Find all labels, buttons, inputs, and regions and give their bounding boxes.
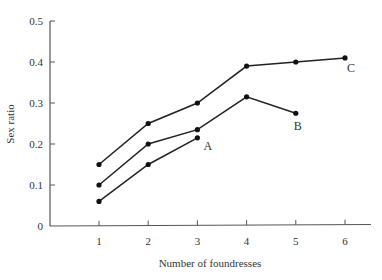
y-tick-label: 0.1: [29, 179, 43, 191]
series-line-a: [99, 138, 197, 202]
series-line-c: [99, 58, 345, 165]
series-label-b: B: [294, 119, 302, 133]
y-axis-label: Sex ratio: [4, 104, 16, 144]
data-point: [244, 64, 249, 69]
x-tick-label: 3: [195, 235, 201, 247]
y-tick-label: 0.2: [29, 138, 43, 150]
x-axis-line: [50, 225, 371, 227]
data-point: [293, 111, 298, 116]
x-tick-label: 1: [96, 235, 102, 247]
x-tick-label: 5: [293, 235, 299, 247]
data-point: [195, 100, 200, 105]
data-point: [244, 94, 249, 99]
data-point: [146, 162, 151, 167]
data-point: [146, 121, 151, 126]
y-tick-label: 0.5: [29, 15, 43, 27]
data-point: [342, 55, 347, 60]
data-point: [96, 182, 101, 187]
y-tick-label: 0: [38, 220, 44, 232]
data-point: [293, 59, 298, 64]
data-point: [96, 162, 101, 167]
series-group: CBA: [96, 55, 355, 204]
series-line-b: [99, 97, 296, 185]
x-tick-label: 6: [342, 235, 348, 247]
data-point: [96, 199, 101, 204]
y-tick-label: 0.3: [29, 97, 43, 109]
line-chart: 00.10.20.30.40.5123456 CBA Number of fou…: [0, 0, 382, 280]
data-point: [146, 141, 151, 146]
series-label-c: C: [347, 61, 355, 75]
x-tick-label: 4: [244, 235, 250, 247]
axes: 00.10.20.30.40.5123456: [29, 15, 371, 247]
series-label-a: A: [203, 139, 212, 153]
data-point: [195, 135, 200, 140]
y-tick-label: 0.4: [29, 56, 43, 68]
x-axis-label: Number of foundresses: [159, 257, 262, 269]
x-tick-label: 2: [145, 235, 151, 247]
data-point: [195, 127, 200, 132]
